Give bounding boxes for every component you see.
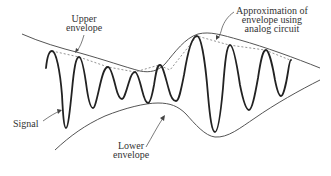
signal-leader — [43, 111, 60, 121]
upper-envelope-leader — [77, 35, 84, 51]
upper-envelope-label: Upper envelope — [66, 14, 102, 32]
signal-arrowhead — [57, 109, 62, 114]
upper-envelope-curve — [22, 33, 320, 72]
approximation-dashed-line — [52, 36, 290, 72]
lower-envelope-arrowhead — [160, 115, 165, 121]
envelope-diagram: Upper envelope Approximation of envelope… — [0, 0, 331, 176]
approximation-leader — [218, 12, 234, 38]
signal-label: Signal — [13, 119, 39, 128]
lower-envelope-label: Lower envelope — [113, 141, 149, 159]
signal-waveform — [46, 36, 291, 132]
approximation-label: Approximation of envelope using analog c… — [236, 6, 308, 33]
lower-envelope-curve — [55, 80, 320, 150]
